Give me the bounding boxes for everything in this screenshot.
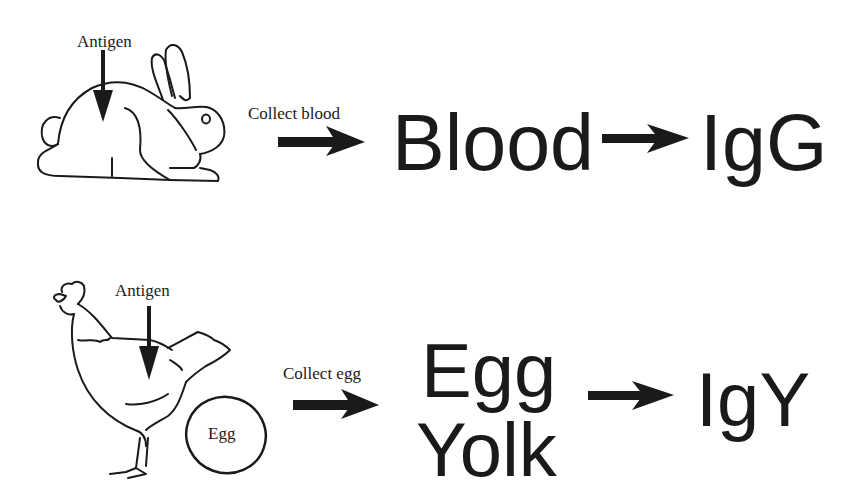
igy-label: IgY (696, 362, 810, 438)
process-arrow (602, 123, 692, 155)
collect-egg-label: Collect egg (283, 364, 361, 384)
collect-arrow (293, 389, 383, 421)
collect-arrow (278, 126, 368, 158)
rabbit-illustration (0, 0, 240, 200)
antigen-injection-arrow (136, 306, 162, 382)
egg-label: Egg (421, 333, 556, 409)
igg-label: IgG (700, 103, 827, 182)
antigen-label: Antigen (115, 281, 170, 301)
antigen-label: Antigen (77, 32, 132, 52)
yolk-label: Yolk (416, 412, 557, 488)
blood-label: Blood (392, 103, 594, 182)
process-arrow (588, 380, 678, 412)
antigen-injection-arrow (90, 50, 116, 125)
collect-blood-label: Collect blood (248, 104, 340, 124)
egg-label-small: Egg (208, 424, 235, 444)
